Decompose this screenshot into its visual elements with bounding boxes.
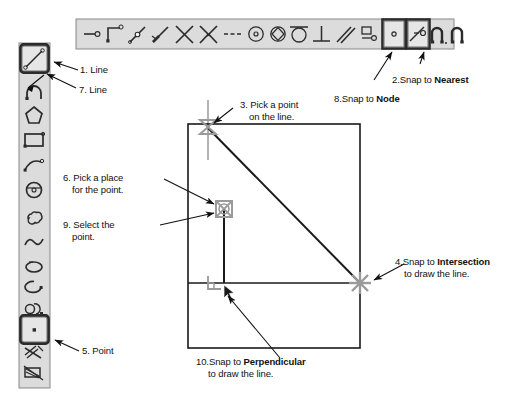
callout-7: 7. Line (79, 84, 107, 96)
magnet-settings-icon[interactable] (451, 28, 464, 44)
callout-9-number: 9. (63, 219, 71, 230)
callout-7-label: Line (89, 84, 107, 95)
leader-9 (160, 213, 214, 225)
callout-4-label-2: to draw the line. (395, 268, 490, 280)
leader-8 (374, 52, 392, 80)
cad-canvas (188, 100, 371, 348)
snap-node-button[interactable] (383, 20, 406, 49)
callout-2-emphasis: Nearest (434, 74, 468, 85)
snap-toolbar[interactable] (76, 19, 464, 49)
callout-5-label: Point (92, 345, 113, 356)
callout-4-number: 4. (395, 256, 403, 267)
callout-3-label-2: on the line. (240, 111, 298, 123)
callout-4: 4.Snap to Intersection to draw the line. (395, 256, 490, 279)
callout-10-label-2: to draw the line. (196, 368, 306, 380)
draw-line-button[interactable] (21, 45, 49, 73)
callout-5-number: 5. (82, 345, 90, 356)
callout-10-emphasis: Perpendicular (244, 356, 306, 367)
node-snap-marker (216, 201, 232, 217)
leader-6 (164, 179, 214, 204)
callout-1-number: 1. (80, 64, 88, 75)
draw-point-button[interactable] (21, 316, 49, 344)
leader-2 (420, 52, 424, 64)
snap-nearest-button[interactable] (407, 20, 430, 49)
diagram-graphics (0, 0, 520, 410)
callout-10: 10.Snap to Perpendicular to draw the lin… (196, 356, 306, 379)
diagram-root: 1. Line 7. Line 2.Snap to Nearest 8.Snap… (0, 0, 520, 410)
callout-3-label: Pick a point (250, 99, 298, 110)
leader-7 (47, 74, 76, 88)
callout-8-emphasis: Node (376, 93, 399, 104)
leader-3 (214, 108, 233, 123)
callout-1-label: Line (90, 64, 108, 75)
callout-6-label-2: for the point. (63, 184, 123, 196)
callout-10-label: Snap to (209, 356, 244, 367)
callout-10-number: 10. (196, 356, 209, 367)
callout-6: 6. Pick a place for the point. (63, 172, 123, 195)
callout-9: 9. Select the point. (63, 219, 115, 242)
callout-9-label: Select the (73, 219, 114, 230)
callout-4-label: Snap to (403, 256, 438, 267)
callout-2-label: Snap to (400, 74, 435, 85)
intersection-snap-marker (349, 272, 371, 294)
drawing-diagonal-line (208, 128, 360, 283)
callout-2-number: 2. (392, 74, 400, 85)
callout-4-emphasis: Intersection (437, 256, 490, 267)
callout-8-number: 8. (334, 93, 342, 104)
draw-toolbar[interactable] (19, 43, 50, 388)
callout-7-number: 7. (79, 84, 87, 95)
leader-5 (55, 340, 79, 351)
callout-9-label-2: point. (63, 231, 115, 243)
callout-6-label: Pick a place (73, 172, 123, 183)
callout-1: 1. Line (80, 64, 108, 76)
callout-3-number: 3. (240, 99, 248, 110)
callout-3: 3. Pick a point on the line. (240, 99, 298, 122)
callout-6-number: 6. (63, 172, 71, 183)
callout-5: 5. Point (82, 345, 113, 357)
leader-1 (54, 62, 78, 70)
callout-8-label: Snap to (342, 93, 377, 104)
drawing-rectangle (188, 124, 360, 348)
callout-2: 2.Snap to Nearest (392, 74, 468, 86)
callout-8: 8.Snap to Node (334, 93, 400, 105)
